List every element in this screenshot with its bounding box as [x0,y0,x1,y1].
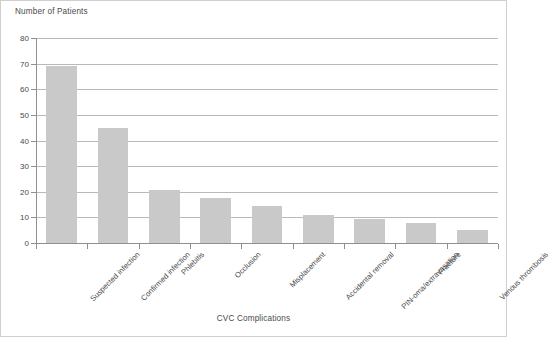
x-axis-tick-label: Venous thrombosis [498,250,550,302]
x-axis-tick-mark [344,244,345,249]
y-axis-tick-mark [31,192,36,193]
x-axis-tick-label: Occlusion [232,250,262,280]
x-axis-tick-mark [139,244,140,249]
y-axis-tick-label: 30 [5,162,29,171]
y-axis-tick-label: 80 [5,34,29,43]
x-axis-tick-mark [87,244,88,249]
x-axis-tick-mark [190,244,191,249]
y-axis-tick-label: 0 [5,239,29,248]
bar[interactable] [98,128,129,243]
bar[interactable] [303,215,334,243]
y-axis-tick-mark [31,217,36,218]
y-axis-tick-mark [31,141,36,142]
bar[interactable] [200,198,231,243]
y-axis-tick-mark [31,166,36,167]
bar[interactable] [354,219,385,243]
bar-series [36,38,498,243]
y-axis-tick-label: 20 [5,187,29,196]
chart-container: Number of Patients 01020304050607080 Sus… [0,0,507,337]
x-axis-tick-label: Suspected infection [88,250,141,303]
x-axis-tick-label: Accidental removal [344,250,396,302]
x-axis-tick-label-group: Suspected infectionConfirmed infectionPh… [36,250,506,312]
x-axis-line [36,243,498,244]
y-axis-tick-label: 40 [5,136,29,145]
y-axis-tick-mark [31,89,36,90]
y-axis-tick-mark [31,64,36,65]
x-axis-tick-mark [36,244,37,249]
y-axis-tick-label: 10 [5,213,29,222]
bar[interactable] [252,206,283,243]
y-axis-tick-label: 50 [5,110,29,119]
y-axis-tick-label: 70 [5,59,29,68]
x-axis-tick-mark [293,244,294,249]
bar[interactable] [457,230,488,243]
y-axis-tick-mark [31,115,36,116]
x-axis-title: CVC Complications [1,314,506,323]
x-axis-tick-mark [395,244,396,249]
y-axis-tick-mark [31,38,36,39]
y-axis-tick-label-group: 01020304050607080 [1,38,29,244]
y-axis-line [36,38,37,244]
x-axis-tick-label: Confirmed infection [139,250,192,303]
bar[interactable] [149,190,180,243]
bar[interactable] [406,223,437,244]
y-axis-tick-label: 60 [5,85,29,94]
x-axis-tick-mark [447,244,448,249]
x-axis-tick-label: Misplacement [288,250,327,289]
x-axis-tick-mark [498,244,499,249]
plot-area [36,38,498,243]
y-axis-title: Number of Patients [15,7,88,16]
x-axis-tick-mark [241,244,242,249]
bar[interactable] [46,66,77,243]
